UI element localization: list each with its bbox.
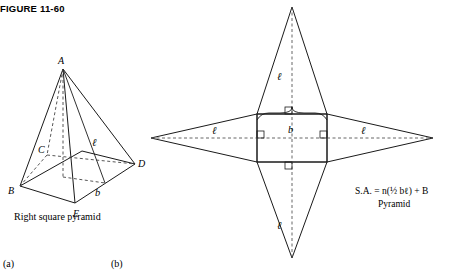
vertex-label-A: A xyxy=(57,55,65,66)
net-label-l-bottom: ℓ xyxy=(277,220,282,231)
figure-container: FIGURE 11-60 A B C D E ℓ b Right square … xyxy=(0,0,452,275)
surface-area-formula-caption: Pyramid xyxy=(378,199,410,209)
pyramid-hidden-edge-AC xyxy=(47,69,63,155)
surface-area-formula: S.A. = n(½ bℓ) + B xyxy=(355,186,428,196)
pyramid-base xyxy=(20,151,135,203)
pyramid-slant-height xyxy=(63,69,105,183)
panel-b-key: (b) xyxy=(111,258,123,269)
net-label-l-right: ℓ xyxy=(361,125,366,136)
panel-a-caption: Right square pyramid xyxy=(14,211,101,222)
pyramid-edge-AE xyxy=(63,69,75,203)
pyramid-hidden-edge-CB xyxy=(20,155,47,186)
net-label-b: b xyxy=(288,124,293,135)
pyramid-hidden-edge-CD xyxy=(47,155,135,164)
panel-b-net-drawing: ℓ ℓ ℓ ℓ b xyxy=(145,2,445,264)
figure-number-label: FIGURE 11-60 xyxy=(0,3,65,14)
pyramid-edge-AB xyxy=(20,69,63,186)
net-label-l-top: ℓ xyxy=(277,71,282,82)
vertex-label-B: B xyxy=(8,185,14,196)
net-label-l-left: ℓ xyxy=(212,125,217,136)
pyramid-apothem xyxy=(63,177,105,183)
pyramid-edge-AD xyxy=(63,69,135,164)
panel-a-key: (a) xyxy=(3,258,14,269)
right-angle-mark-right xyxy=(320,131,327,138)
right-angle-mark-left xyxy=(257,131,264,138)
edge-label-slant-l: ℓ xyxy=(92,137,97,148)
right-angle-mark-bottom xyxy=(285,162,292,169)
edge-label-base-b: b xyxy=(95,187,100,198)
vertex-label-C: C xyxy=(38,144,45,155)
